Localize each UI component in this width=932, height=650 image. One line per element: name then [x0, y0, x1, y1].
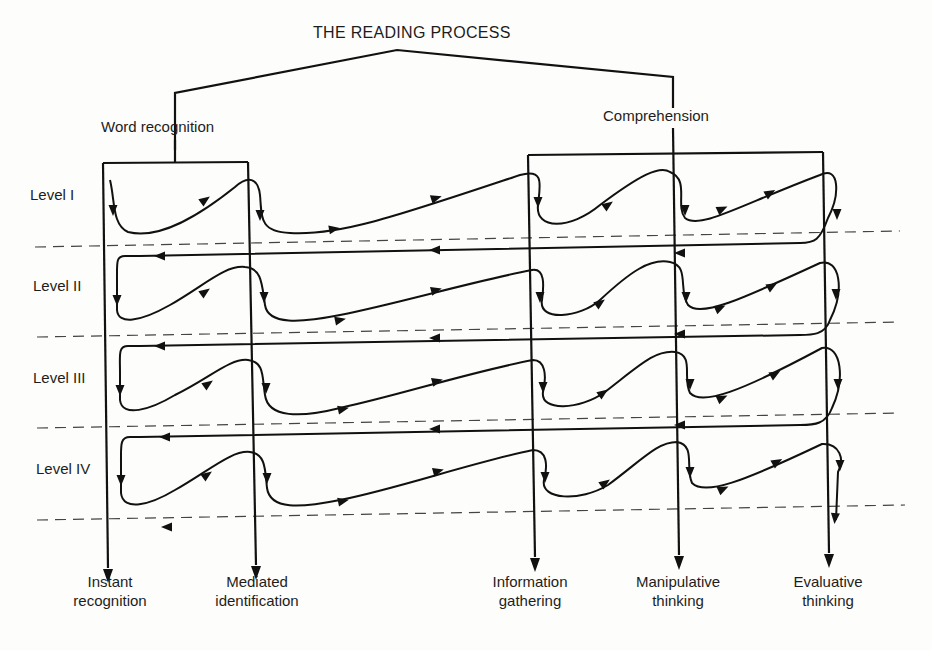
down-arrow-icon: [530, 558, 540, 572]
flow-arrow-icon: [116, 385, 125, 396]
flow-arrow-icon: [113, 295, 122, 306]
flow-arrow-icon: [262, 383, 271, 394]
outcome-line-1: Instant: [73, 572, 146, 591]
flow-arrow-icon: [430, 284, 443, 296]
level-2-flow-curve: [117, 256, 839, 346]
flow-arrow-icon: [337, 403, 350, 414]
flow-arrow-icon: [834, 379, 843, 390]
outcome-label-2: Mediatedidentification: [215, 572, 298, 610]
manipulative-thinking-line: [673, 128, 679, 555]
information-gathering-line: [528, 155, 535, 557]
flow-arrow-icon: [539, 382, 548, 393]
branch-comprehension: Comprehension: [603, 106, 709, 125]
comprehension-bracket: [528, 152, 823, 155]
outcome-line-2: recognition: [73, 591, 146, 610]
outcome-line-1: Mediated: [215, 572, 298, 591]
branch-word-recognition: Word recognition: [101, 117, 214, 136]
flow-arrow-icon: [154, 252, 165, 261]
level-3-flow-curve: [120, 346, 840, 437]
flow-arrow-icon: [686, 467, 695, 478]
flow-arrow-icon: [541, 472, 550, 483]
flow-arrow-icon: [830, 513, 840, 525]
outcome-label-5: Evaluativethinking: [793, 572, 862, 610]
outcome-line-2: thinking: [793, 591, 862, 610]
level-label-4: Level IV: [36, 459, 90, 478]
outcome-line-1: Information: [492, 572, 567, 591]
flow-arrow-icon: [337, 495, 350, 506]
flow-arrow-icon: [593, 296, 607, 310]
flow-arrow-icon: [159, 433, 170, 442]
evaluative-thinking-line: [823, 152, 829, 553]
level-separator-4: [37, 505, 905, 520]
down-arrow-icon: [674, 556, 684, 570]
flow-arrow-icon: [263, 473, 272, 484]
flow-arrow-icon: [836, 460, 845, 471]
outcome-line-2: identification: [215, 591, 298, 610]
flow-arrow-icon: [117, 475, 126, 486]
flow-arrow-icon: [154, 342, 165, 351]
flow-arrow-icon: [765, 279, 779, 292]
outcome-line-2: gathering: [492, 591, 567, 610]
flow-arrow-icon: [682, 292, 691, 303]
process-flow-curves: [110, 170, 841, 520]
word-recognition-bracket: [103, 162, 248, 163]
instant-recognition-line: [103, 163, 108, 568]
flow-arrow-icon: [161, 523, 172, 532]
flow-arrow-icon: [833, 209, 842, 220]
outcome-label-3: Informationgathering: [492, 572, 567, 610]
skill-lines: [103, 128, 834, 583]
flow-arrow-icon: [260, 292, 269, 303]
mediated-identification-line: [248, 162, 256, 565]
level-label-1: Level I: [30, 185, 74, 204]
hierarchy-tree-lines: [175, 50, 673, 150]
outcome-label-4: Manipulativethinking: [636, 572, 720, 610]
level-4-flow-curve: [121, 437, 841, 520]
level-label-2: Level II: [33, 276, 81, 295]
outcome-line-1: Evaluative: [793, 572, 862, 591]
flow-arrow-icon: [596, 386, 610, 400]
diagram-title: THE READING PROCESS: [313, 23, 511, 42]
outcome-line-2: thinking: [636, 591, 720, 610]
flow-arrowheads: [109, 186, 845, 531]
level-label-3: Level III: [33, 368, 86, 387]
outcome-label-1: Instantrecognition: [73, 572, 146, 610]
down-arrow-icon: [824, 554, 834, 568]
flow-arrow-icon: [534, 197, 543, 208]
outcome-line-1: Manipulative: [636, 572, 720, 591]
flow-arrow-icon: [429, 246, 440, 255]
reading-process-diagram: [0, 0, 932, 650]
level-separator-1: [35, 231, 900, 247]
